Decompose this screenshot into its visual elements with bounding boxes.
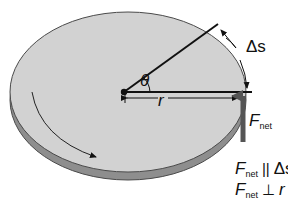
relation-perpendicular: Fnet⊥r [235,181,285,198]
center-pivot [121,89,127,95]
radius-label: r [158,92,164,109]
theta-label: θ [140,72,149,89]
rotating-disc-diagram: θ r Δs Fnet Fnet||Δs Fnet⊥r [0,0,288,200]
relation-parallel: Fnet||Δs [235,160,288,177]
force-label: Fnet [249,112,272,129]
arc-length-label: Δs [246,38,266,55]
